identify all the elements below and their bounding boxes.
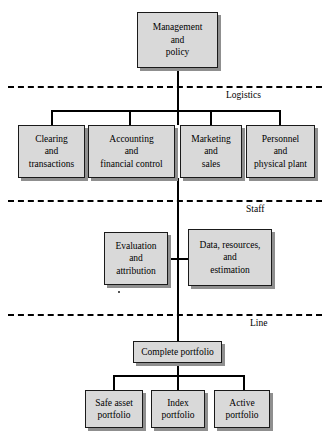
node-label: Marketingandsales [184, 133, 238, 171]
node-label: Accountingandfinancial control [92, 133, 171, 171]
divider-logistics [8, 86, 322, 88]
zone-label-logistics: Logistics [226, 90, 261, 101]
node-management-and-policy[interactable]: Managementandpolicy [137, 12, 218, 68]
node-label: Activeportfolio [218, 397, 266, 422]
divider-line [8, 314, 322, 316]
node-label: Safe assetportfolio [89, 397, 139, 422]
node-complete-portfolio[interactable]: Complete portfolio [133, 341, 222, 363]
node-label: Data, resources,andestimation [192, 239, 268, 277]
node-label: Evaluationandattribution [108, 240, 164, 278]
node-data-resources-and-estimation[interactable]: Data, resources,andestimation [188, 229, 272, 286]
zone-label-staff: Staff [246, 204, 264, 215]
drop-active [243, 375, 245, 390]
node-clearing-and-transactions[interactable]: Clearingandtransactions [18, 125, 85, 178]
bus-line-children [113, 375, 245, 377]
node-accounting-and-financial-control[interactable]: Accountingandfinancial control [88, 125, 175, 178]
node-safe-asset-portfolio[interactable]: Safe assetportfolio [85, 390, 143, 428]
node-personnel-and-physical-plant[interactable]: Personnelandphysical plant [246, 125, 315, 178]
node-label: Clearingandtransactions [22, 133, 81, 171]
drop-marketing [210, 110, 212, 125]
bus-logistics [51, 110, 281, 112]
node-index-portfolio[interactable]: Indexportfolio [151, 390, 205, 428]
drop-clearing [51, 110, 53, 125]
drop-personnel [279, 110, 281, 125]
zone-label-line: Line [250, 318, 267, 329]
node-evaluation-and-attribution[interactable]: Evaluationandattribution [104, 232, 168, 285]
trunk-logistics-to-staff [177, 178, 179, 232]
trunk-root-to-logistics [177, 68, 179, 125]
node-label: Personnelandphysical plant [250, 133, 311, 171]
drop-accounting [129, 110, 131, 125]
node-label: Managementandpolicy [141, 21, 214, 59]
ink-speck [118, 291, 120, 293]
node-marketing-and-sales[interactable]: Marketingandsales [180, 125, 242, 178]
org-chart: Managementandpolicy Logistics Clearingan… [0, 0, 330, 447]
node-label: Complete portfolio [137, 346, 218, 359]
divider-staff [8, 200, 322, 202]
drop-index [177, 375, 179, 390]
node-label: Indexportfolio [155, 397, 201, 422]
drop-safe-asset [113, 375, 115, 390]
node-active-portfolio[interactable]: Activeportfolio [214, 390, 270, 428]
